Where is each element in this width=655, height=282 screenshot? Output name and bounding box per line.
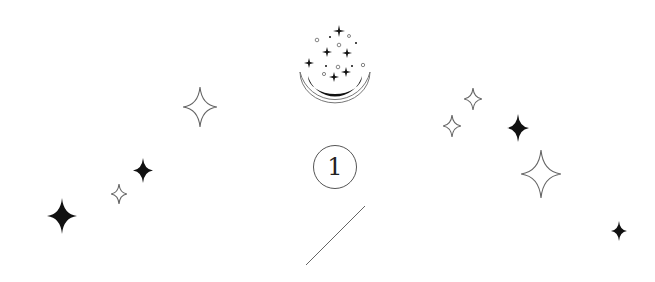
- filled-sparkle-star-icon: [47, 198, 77, 234]
- filled-sparkle-star-icon: [133, 158, 153, 183]
- outline-sparkle-star-icon: [443, 115, 461, 137]
- outline-sparkle-star-icon: [183, 87, 217, 127]
- outline-sparkle-star-icon: [464, 88, 482, 110]
- crescent-moon-emblem: [295, 22, 375, 120]
- filled-sparkle-star-icon: [507, 114, 529, 142]
- diagonal-divider: [304, 204, 368, 268]
- number-badge: 1: [313, 145, 357, 189]
- outline-sparkle-star-icon: [521, 150, 561, 198]
- badge-number: 1: [327, 153, 342, 181]
- crescent-moon-with-stars-icon: [295, 22, 375, 120]
- outline-sparkle-star-icon: [111, 184, 127, 204]
- filled-sparkle-star-icon: [611, 221, 627, 241]
